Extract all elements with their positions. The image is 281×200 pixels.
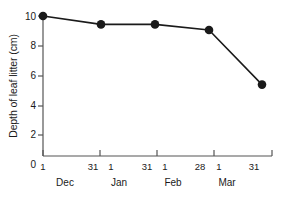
data-point-marker: [258, 80, 267, 89]
data-point-marker: [39, 12, 48, 21]
plot-area: [0, 0, 281, 200]
data-point-marker: [151, 20, 160, 29]
data-point-marker: [97, 20, 106, 29]
data-point-marker: [205, 26, 214, 35]
leaf-litter-depth-chart: Depth of leaf litter (cm) 10 8 6 4 2 0 1…: [0, 0, 281, 200]
